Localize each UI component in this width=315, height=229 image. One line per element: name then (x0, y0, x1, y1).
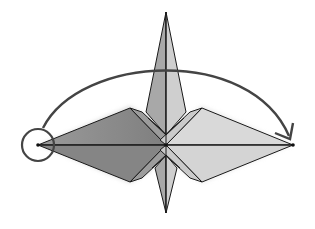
diagram-canvas (0, 0, 315, 229)
right-tip-point (291, 143, 295, 147)
left-tip-point (36, 143, 40, 147)
center-point (164, 143, 168, 147)
origami-diagram: Crane base viewed from above: rotate/fli… (0, 0, 315, 229)
crease-lines (38, 12, 293, 213)
